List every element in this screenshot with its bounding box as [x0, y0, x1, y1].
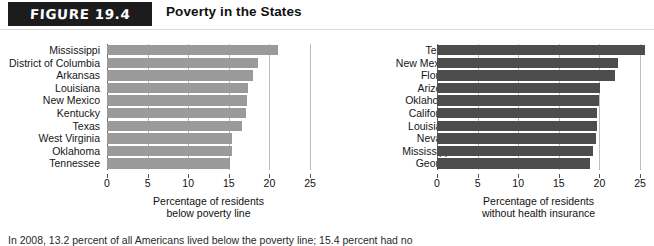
bar-row	[107, 108, 310, 118]
plot-area-poverty	[107, 44, 310, 170]
tick-label: 5	[475, 177, 481, 189]
tick-label: 10	[512, 177, 524, 189]
bar	[437, 158, 590, 168]
bar-row	[107, 70, 310, 80]
tick-label: 20	[264, 177, 276, 189]
figure-header: FIGURE 19.4 Poverty in the States	[0, 0, 654, 30]
bar	[437, 133, 596, 143]
plot-area-insurance	[437, 44, 640, 170]
bar-row	[437, 45, 640, 55]
axis-caption-poverty: Percentage of residents below poverty li…	[107, 195, 310, 219]
bar-row	[107, 158, 310, 168]
category-label: Tennessee	[4, 157, 104, 170]
category-label: Mississippi	[4, 44, 104, 57]
category-label: West Virginia	[4, 132, 104, 145]
bar-row	[437, 133, 640, 143]
tick-label: 5	[145, 177, 151, 189]
bar	[437, 58, 618, 68]
bar	[107, 133, 232, 143]
header-divider	[0, 29, 654, 30]
bar-row	[437, 146, 640, 156]
bar-row	[107, 83, 310, 93]
tick-label: 0	[434, 177, 440, 189]
bar-row	[107, 146, 310, 156]
bar	[107, 58, 258, 68]
gridline	[640, 44, 641, 170]
bar	[437, 45, 645, 55]
bar	[437, 70, 615, 80]
axis-caption-insurance-line1: Percentage of residents	[437, 195, 640, 207]
tick-label: 25	[304, 177, 316, 189]
category-label: Texas	[4, 120, 104, 133]
bar-row	[107, 58, 310, 68]
bar	[437, 121, 597, 131]
category-label: Arkansas	[4, 69, 104, 82]
value-axis-poverty: 0510152025	[107, 174, 310, 188]
category-axis-labels-poverty: MississippiDistrict of ColumbiaArkansasL…	[4, 44, 104, 170]
axis-caption-poverty-line1: Percentage of residents	[107, 195, 310, 207]
bar-row	[437, 121, 640, 131]
bar	[107, 83, 248, 93]
chart-insurance: TexasNew MexicoFloridaArizonaOklahomaCal…	[328, 38, 654, 228]
value-axis-insurance: 0510152025	[437, 174, 640, 188]
category-label: Oklahoma	[4, 145, 104, 158]
bar	[437, 95, 599, 105]
bar	[107, 108, 246, 118]
category-label: District of Columbia	[4, 57, 104, 70]
bar-row	[437, 158, 640, 168]
bar-row	[437, 70, 640, 80]
tick-label: 25	[634, 177, 646, 189]
axis-caption-poverty-line2: below poverty line	[107, 207, 310, 219]
bar-row	[107, 95, 310, 105]
tick-label: 15	[223, 177, 235, 189]
gridline	[310, 44, 311, 170]
figure-number-label: FIGURE 19.4	[29, 6, 130, 22]
tick-label: 0	[104, 177, 110, 189]
bar-row	[107, 133, 310, 143]
tick-label: 15	[553, 177, 565, 189]
bar	[107, 146, 232, 156]
axis-caption-insurance-line2: without health insurance	[437, 207, 640, 219]
tick-label: 10	[182, 177, 194, 189]
figure-title: Poverty in the States	[166, 4, 302, 19]
bar	[437, 108, 597, 118]
category-label: Louisiana	[4, 82, 104, 95]
bar	[107, 45, 278, 55]
category-label: Kentucky	[4, 107, 104, 120]
bar	[437, 83, 600, 93]
bar-row	[437, 95, 640, 105]
bar	[437, 146, 593, 156]
category-label: New Mexico	[4, 94, 104, 107]
bar-row	[437, 83, 640, 93]
bar-row	[437, 108, 640, 118]
figure-number-badge: FIGURE 19.4	[8, 2, 152, 26]
bar-row	[107, 45, 310, 55]
bar	[107, 121, 242, 131]
bar	[107, 158, 230, 168]
figure-source-note: In 2008, 13.2 percent of all Americans l…	[8, 234, 648, 246]
bar-row	[107, 121, 310, 131]
bar	[107, 95, 247, 105]
axis-caption-insurance: Percentage of residents without health i…	[437, 195, 640, 219]
tick-label: 20	[594, 177, 606, 189]
chart-poverty: MississippiDistrict of ColumbiaArkansasL…	[0, 38, 326, 228]
bar	[107, 70, 253, 80]
bar-row	[437, 58, 640, 68]
